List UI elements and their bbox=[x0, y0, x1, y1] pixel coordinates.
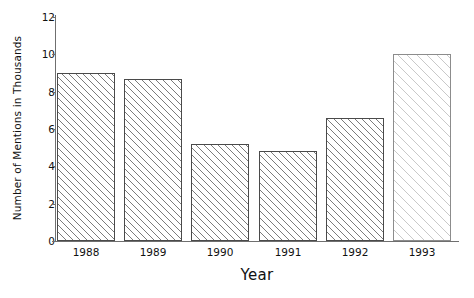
x-axis-title: Year bbox=[55, 266, 459, 284]
bar-1989 bbox=[124, 79, 182, 241]
x-axis-line bbox=[55, 241, 459, 242]
y-tick-mark bbox=[52, 241, 56, 242]
bar-1991 bbox=[259, 151, 317, 241]
x-tick-label: 1993 bbox=[383, 246, 461, 258]
x-tick-label: 1990 bbox=[181, 246, 259, 258]
bar-1993 bbox=[393, 54, 451, 241]
bar-1990 bbox=[191, 144, 249, 241]
bar-1992 bbox=[326, 118, 384, 241]
bar-1988 bbox=[57, 73, 115, 241]
plot-area bbox=[55, 17, 458, 241]
bar-chart: Number of Mentions in Thousands 02468101… bbox=[0, 0, 474, 298]
